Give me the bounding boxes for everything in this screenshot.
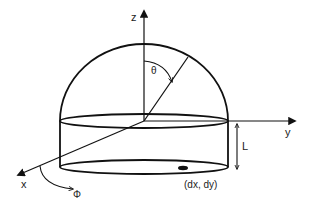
point-label: (dx, dy) — [184, 180, 217, 190]
theta-label: θ — [151, 66, 157, 76]
phi-label: Φ — [73, 190, 81, 200]
x-axis-label: x — [21, 179, 27, 190]
theta-arc — [144, 61, 172, 82]
z-axis-label: z — [131, 12, 137, 23]
y-axis-label: y — [285, 127, 291, 138]
cylinder-bottom-ellipse — [60, 160, 228, 174]
diagram-canvas — [0, 0, 310, 208]
point-marker — [178, 166, 188, 170]
height-label: L — [242, 141, 248, 152]
x-axis — [18, 121, 144, 175]
